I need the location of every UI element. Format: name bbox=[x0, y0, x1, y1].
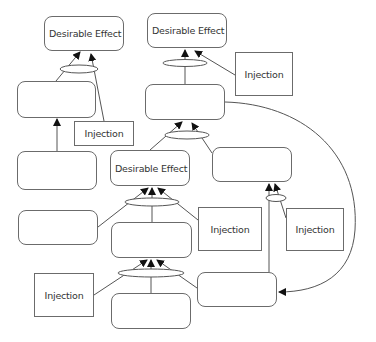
entity-box-m3 bbox=[111, 293, 191, 329]
entity-box-l3 bbox=[18, 210, 98, 245]
node-label: Injection bbox=[45, 290, 84, 301]
edge-inj3-to-m2 bbox=[94, 260, 147, 295]
entity-box-r1 bbox=[145, 84, 225, 120]
injection-box-inj4: Injection bbox=[198, 207, 262, 251]
node-label: Injection bbox=[211, 224, 250, 235]
entity-box-r3 bbox=[197, 272, 277, 307]
and-ellipse-and2 bbox=[163, 60, 207, 67]
node-label: Desirable Effect bbox=[49, 28, 121, 39]
and-ellipse-and3 bbox=[165, 131, 209, 139]
and-ellipse-and6 bbox=[266, 195, 286, 202]
entity-box-l2 bbox=[17, 151, 97, 190]
and-ellipse-and5 bbox=[118, 269, 184, 277]
desirable-effect-box-de3: Desirable Effect bbox=[110, 150, 190, 186]
node-label: Desirable Effect bbox=[152, 25, 224, 36]
and-ellipse-and1 bbox=[60, 65, 98, 73]
and-ellipse-and4 bbox=[125, 198, 179, 206]
desirable-effect-box-de1: Desirable Effect bbox=[44, 16, 124, 51]
injection-box-inj2: Injection bbox=[235, 52, 293, 96]
entity-box-l1 bbox=[17, 81, 96, 118]
node-label: Injection bbox=[85, 128, 124, 139]
node-label: Desirable Effect bbox=[115, 163, 187, 174]
injection-box-inj3: Injection bbox=[34, 273, 94, 317]
edge-r1-to-r3 bbox=[225, 102, 355, 292]
entity-box-m2 bbox=[111, 222, 192, 258]
node-label: Injection bbox=[245, 69, 284, 80]
injection-box-inj5: Injection bbox=[286, 208, 344, 251]
node-label: Injection bbox=[296, 224, 335, 235]
desirable-effect-box-de2: Desirable Effect bbox=[147, 13, 227, 48]
injection-box-inj1: Injection bbox=[74, 121, 134, 146]
entity-box-r2 bbox=[212, 147, 292, 182]
